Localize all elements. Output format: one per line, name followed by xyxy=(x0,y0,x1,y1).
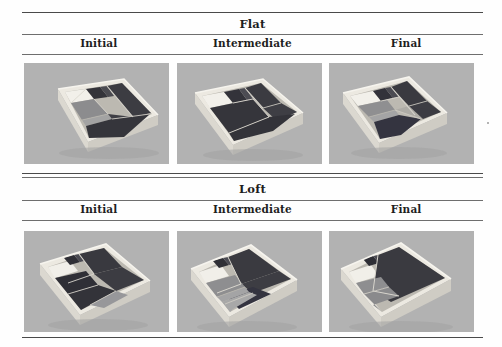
midrule-above-headers-flat xyxy=(22,34,483,35)
midrule-below-headers-loft xyxy=(22,220,483,221)
column-header-loft-final: Final xyxy=(329,203,483,215)
loft-initial-photo xyxy=(24,231,169,332)
flat-intermediate-photo xyxy=(177,63,322,164)
group-title-flat: Flat xyxy=(22,17,483,31)
flat-final-photo xyxy=(329,63,474,164)
bottomrule-group-loft xyxy=(22,337,483,338)
loft-final-photo xyxy=(329,231,474,332)
column-header-row-loft: Initial Intermediate Final xyxy=(22,203,483,215)
flat-initial-illustration xyxy=(24,63,169,164)
image-row-loft xyxy=(24,231,474,332)
scan-speck xyxy=(487,122,489,124)
midrule-below-headers-flat xyxy=(22,54,483,55)
toprule-group-flat xyxy=(22,12,483,13)
flat-initial-photo xyxy=(24,63,169,164)
flat-final-illustration xyxy=(329,63,474,164)
loft-intermediate-illustration xyxy=(177,231,322,332)
column-header-row-flat: Initial Intermediate Final xyxy=(22,37,483,49)
figure-root: Flat Initial Intermediate Final xyxy=(0,0,502,347)
loft-final-illustration xyxy=(329,231,474,332)
flat-intermediate-illustration xyxy=(177,63,322,164)
toprule-group-loft xyxy=(22,177,483,178)
midrule-above-headers-loft xyxy=(22,200,483,201)
column-header-loft-initial: Initial xyxy=(22,203,176,215)
column-header-flat-initial: Initial xyxy=(22,37,176,49)
loft-intermediate-photo xyxy=(177,231,322,332)
column-header-flat-final: Final xyxy=(329,37,483,49)
bottomrule-group-flat xyxy=(22,173,483,174)
image-row-flat xyxy=(24,63,474,164)
loft-initial-illustration xyxy=(24,231,169,332)
column-header-loft-intermediate: Intermediate xyxy=(176,203,330,215)
column-header-flat-intermediate: Intermediate xyxy=(176,37,330,49)
group-title-loft: Loft xyxy=(22,182,483,196)
